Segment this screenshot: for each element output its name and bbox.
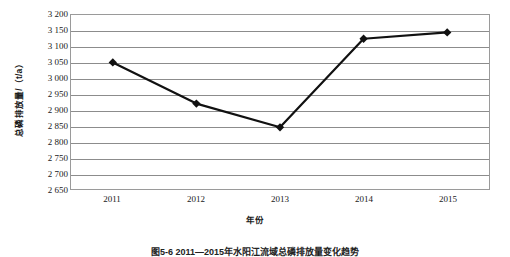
series-polyline [113, 32, 447, 127]
x-axis-tick-label: 2015 [418, 194, 478, 205]
x-axis-tick-label: 2011 [82, 194, 142, 205]
x-axis-tick-label: 2013 [250, 194, 310, 205]
plot-area [70, 14, 490, 190]
figure-caption: 图5-6 2011—2015年水阳江流域总磷排放量变化趋势 [0, 245, 510, 257]
y-axis-tick-label: 3 150 [24, 26, 68, 35]
y-axis-tick-label: 2 750 [24, 154, 68, 163]
y-axis-tick-label: 3 200 [24, 10, 68, 19]
x-axis-tick-label: 2014 [334, 194, 394, 205]
y-axis-tick-label: 2 800 [24, 138, 68, 147]
y-axis-tick-label: 3 050 [24, 58, 68, 67]
series-line-total-phosphorus [71, 15, 489, 189]
figure-chart-total-phosphorus: 总磷排放量/（t/a） 3 2003 1503 1003 0503 0002 9… [0, 0, 510, 257]
x-axis-tick-label: 2012 [166, 194, 226, 205]
data-point-marker [443, 28, 451, 36]
y-axis-tick-label: 3 000 [24, 74, 68, 83]
x-axis-tick-labels: 20112012201320142015 [70, 194, 490, 208]
y-axis-tick-label: 2 950 [24, 90, 68, 99]
y-axis-tick-label: 2 850 [24, 122, 68, 131]
y-axis-title-text: 总磷排放量/（t/a） [12, 59, 24, 136]
y-axis-tick-label: 3 100 [24, 42, 68, 51]
y-axis-tick-label: 2 900 [24, 106, 68, 115]
y-axis-tick-label: 2 650 [24, 186, 68, 195]
y-axis-tick-labels: 3 2003 1503 1003 0503 0002 9502 9002 850… [24, 14, 68, 190]
data-point-marker [109, 58, 117, 66]
x-axis-title: 年份 [0, 213, 510, 225]
y-axis-tick-label: 2 700 [24, 170, 68, 179]
data-point-marker [192, 99, 200, 107]
